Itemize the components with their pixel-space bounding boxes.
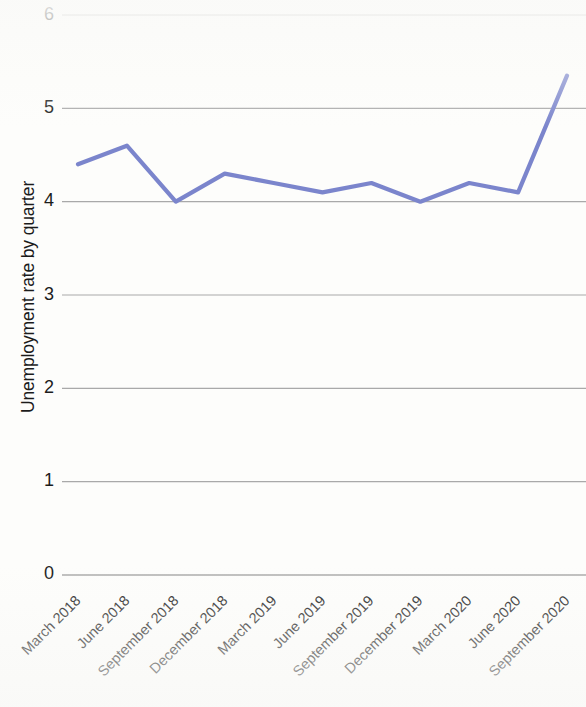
- unemployment-line-chart: Unemployment rate by quarter 6 5 4 3 2 1…: [0, 0, 586, 707]
- x-axis-tick-labels: March 2018June 2018September 2018Decembe…: [0, 0, 586, 707]
